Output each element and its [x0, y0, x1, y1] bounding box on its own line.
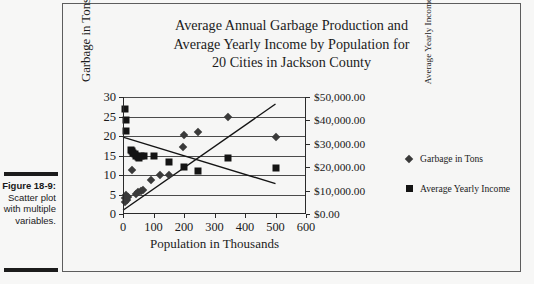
- x-tick-label: 300: [205, 220, 224, 235]
- data-point-square: [181, 163, 188, 170]
- y-tick-right: [306, 191, 310, 192]
- figure-caption-column: Figure 18-9: Scatter plot with multiple …: [0, 0, 62, 284]
- figure-caption: Figure 18-9: Scatter plot with multiple …: [0, 180, 56, 226]
- data-point-square: [165, 158, 172, 165]
- y-tick-label-left: 25: [103, 109, 116, 124]
- y-tick-label-right: $40,000.00: [314, 114, 365, 126]
- y-axis-title-left: Garbage in Tons: [79, 0, 93, 100]
- figure-page: Figure 18-9: Scatter plot with multiple …: [0, 0, 534, 284]
- x-tick-label: 100: [144, 220, 163, 235]
- legend-item-garbage[interactable]: Garbage in Tons: [403, 152, 510, 164]
- chart-title: Average Annual Garbage Production and Av…: [63, 16, 520, 72]
- garbage-trend: [123, 137, 276, 183]
- y-tick-label-left: 15: [103, 148, 116, 163]
- y-tick-label-right: $0.00: [314, 208, 340, 220]
- x-tick-label: 600: [297, 220, 316, 235]
- y-tick-label-left: 20: [103, 129, 116, 144]
- chart-legend: Garbage in Tons Average Yearly Income: [403, 152, 510, 212]
- chart-title-line-1: Average Annual Garbage Production and: [63, 16, 520, 35]
- x-tick-label: 0: [120, 220, 126, 235]
- x-tick: [245, 214, 246, 218]
- y-tick-right: [306, 167, 310, 168]
- diamond-marker-icon: [403, 153, 415, 164]
- y-tick-label-left: 5: [110, 187, 116, 202]
- y-axis-left-line: [123, 97, 124, 214]
- x-tick: [154, 214, 155, 218]
- x-tick: [215, 214, 216, 218]
- caption-rule-bottom: [4, 268, 58, 272]
- y-tick-label-right: $10,000.00: [314, 185, 365, 197]
- x-tick-label: 400: [236, 220, 255, 235]
- y-tick-label-right: $50,000.00: [314, 91, 365, 103]
- data-point-square: [225, 154, 232, 161]
- y-tick-label-right: $20,000.00: [314, 161, 365, 173]
- y-axis-title-right: Average Yearly Income: [423, 0, 435, 100]
- y-tick-right: [306, 144, 310, 145]
- plot-area: 051015202530 $0.00$10,000.00$20,000.00$3…: [123, 97, 306, 214]
- data-point-square: [150, 152, 157, 159]
- x-axis-line: [123, 213, 306, 214]
- figure-frame: Average Annual Garbage Production and Av…: [62, 3, 521, 272]
- x-axis-title: Population in Thousands: [123, 236, 306, 252]
- y-tick-label-right: $30,000.00: [314, 138, 365, 150]
- y-tick-label-left: 10: [103, 168, 116, 183]
- legend-label-garbage: Garbage in Tons: [420, 153, 483, 164]
- chart-title-line-3: 20 Cities in Jackson County: [63, 53, 520, 72]
- figure-number: Figure 18-9:: [2, 180, 56, 191]
- chart-title-line-2: Average Yearly Income by Population for: [63, 35, 520, 54]
- y-tick-right: [306, 120, 310, 121]
- x-tick: [276, 214, 277, 218]
- data-point-square: [272, 164, 279, 171]
- data-point-square: [194, 167, 201, 174]
- legend-item-income[interactable]: Average Yearly Income: [403, 182, 510, 194]
- caption-line-3: multiple: [23, 203, 56, 214]
- y-tick-label-left: 30: [103, 90, 116, 105]
- data-point-square: [141, 152, 148, 159]
- x-tick-label: 500: [266, 220, 285, 235]
- x-tick-label: 200: [175, 220, 194, 235]
- x-tick: [306, 214, 307, 218]
- legend-label-income: Average Yearly Income: [420, 183, 510, 194]
- x-tick: [123, 214, 124, 218]
- y-axis-right-line: [305, 97, 306, 214]
- caption-line-1: Scatter: [8, 192, 38, 203]
- caption-line-4: variables.: [15, 215, 56, 226]
- square-marker-icon: [403, 183, 415, 194]
- y-tick-right: [306, 97, 310, 98]
- y-tick-label-left: 0: [110, 207, 116, 222]
- caption-rule-top: [4, 172, 58, 176]
- x-tick: [184, 214, 185, 218]
